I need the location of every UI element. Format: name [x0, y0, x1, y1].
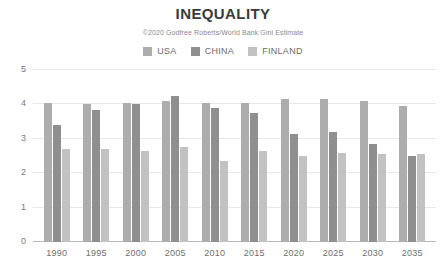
- bar-usa-2000[interactable]: [123, 103, 131, 242]
- bar-china-2000[interactable]: [132, 104, 140, 242]
- bar-china-2020[interactable]: [290, 134, 298, 242]
- bar-group-2035: [393, 70, 433, 242]
- bar-usa-2020[interactable]: [281, 99, 289, 242]
- bar-finland-2030[interactable]: [378, 154, 386, 242]
- bar-usa-2030[interactable]: [360, 101, 368, 242]
- bar-finland-1990[interactable]: [62, 149, 70, 242]
- x-axis-tick-label: 1995: [77, 248, 117, 258]
- bar-group-2015: [235, 70, 275, 242]
- bar-usa-1995[interactable]: [83, 104, 91, 242]
- bar-finland-2000[interactable]: [141, 151, 149, 242]
- legend-label: CHINA: [205, 47, 235, 56]
- x-axis-tick-label: 2005: [156, 248, 196, 258]
- x-axis-tick-label: 2020: [274, 248, 314, 258]
- inequality-bar-chart: INEQUALITY ©2020 Godfree Roberts/World B…: [0, 0, 446, 269]
- x-axis-tick-label: 1990: [37, 248, 77, 258]
- legend-label: USA: [157, 47, 176, 56]
- bar-group-2000: [116, 70, 156, 242]
- bar-finland-2005[interactable]: [180, 147, 188, 242]
- x-axis-tick-label: 2035: [393, 248, 433, 258]
- bar-china-2035[interactable]: [408, 156, 416, 242]
- bar-usa-1990[interactable]: [44, 103, 52, 242]
- bar-group-1995: [77, 70, 117, 242]
- chart-title: INEQUALITY: [0, 0, 446, 22]
- bar-china-2025[interactable]: [329, 132, 337, 242]
- legend-item-china[interactable]: CHINA: [191, 47, 235, 56]
- bar-china-1990[interactable]: [53, 125, 61, 242]
- bar-usa-2005[interactable]: [162, 101, 170, 242]
- bar-finland-2015[interactable]: [259, 151, 267, 242]
- chart-subtitle: ©2020 Godfree Roberts/World Bank Gini Es…: [0, 22, 446, 37]
- bar-finland-2035[interactable]: [417, 154, 425, 242]
- x-axis-tick-label: 2015: [235, 248, 275, 258]
- bar-finland-2025[interactable]: [338, 153, 346, 242]
- y-axis-tick-label: 1: [21, 202, 26, 211]
- x-axis-tick-label: 2000: [116, 248, 156, 258]
- y-axis-tick-label: 4: [21, 99, 26, 108]
- bar-group-2020: [274, 70, 314, 242]
- bar-usa-2035[interactable]: [399, 106, 407, 242]
- bar-group-2030: [353, 70, 393, 242]
- legend-swatch-icon: [248, 47, 257, 56]
- bar-group-2010: [195, 70, 235, 242]
- x-axis-tick-label: 2025: [314, 248, 354, 258]
- bar-group-1990: [37, 70, 77, 242]
- y-axis-tick-label: 5: [21, 65, 26, 74]
- bar-finland-2020[interactable]: [299, 156, 307, 242]
- legend-swatch-icon: [143, 47, 152, 56]
- bars-layer: [33, 70, 436, 242]
- bar-group-2005: [156, 70, 196, 242]
- legend-item-finland[interactable]: FINLAND: [248, 47, 303, 56]
- y-axis-tick-label: 0: [21, 237, 26, 246]
- bar-usa-2015[interactable]: [241, 103, 249, 242]
- x-axis-tick-label: 2030: [353, 248, 393, 258]
- y-axis-tick-label: 2: [21, 168, 26, 177]
- y-axis-tick-label: 3: [21, 133, 26, 142]
- bar-china-2030[interactable]: [369, 144, 377, 242]
- chart-legend: USACHINAFINLAND: [0, 45, 446, 57]
- bar-china-2005[interactable]: [171, 96, 179, 242]
- plot-wrapper: 012345 199019952000200520102015202020252…: [0, 62, 446, 269]
- x-axis-labels: 1990199520002005201020152020202520302035: [33, 248, 436, 258]
- bar-finland-2010[interactable]: [220, 161, 228, 242]
- bar-china-2010[interactable]: [211, 108, 219, 242]
- legend-item-usa[interactable]: USA: [143, 47, 176, 56]
- bar-finland-1995[interactable]: [101, 149, 109, 242]
- bar-group-2025: [314, 70, 354, 242]
- bar-china-1995[interactable]: [92, 110, 100, 242]
- bar-usa-2010[interactable]: [202, 103, 210, 242]
- plot-area: 012345: [33, 70, 436, 242]
- x-axis-tick-label: 2010: [195, 248, 235, 258]
- bar-usa-2025[interactable]: [320, 99, 328, 242]
- legend-swatch-icon: [191, 47, 200, 56]
- bar-china-2015[interactable]: [250, 113, 258, 242]
- legend-label: FINLAND: [262, 47, 303, 56]
